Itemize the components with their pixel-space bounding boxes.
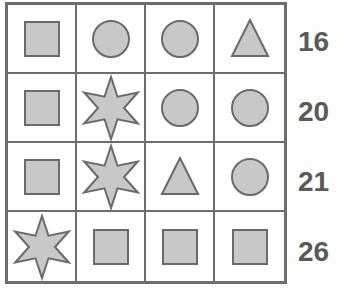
circle-icon	[218, 76, 282, 140]
square-icon	[148, 215, 212, 279]
star-icon	[10, 215, 74, 279]
grid-cell	[215, 5, 284, 74]
grid-cell	[146, 212, 215, 281]
grid-cell	[8, 143, 77, 212]
star-icon	[79, 145, 143, 209]
circle-icon	[218, 145, 282, 209]
grid-cell	[146, 74, 215, 143]
grid-cell	[146, 143, 215, 212]
row-sum: 16	[298, 26, 329, 58]
grid-cell	[77, 143, 146, 212]
grid-cell	[77, 74, 146, 143]
row-sum: 21	[298, 166, 329, 198]
grid-cell	[8, 74, 77, 143]
grid-cell	[8, 212, 77, 281]
triangle-icon	[148, 145, 212, 209]
row-sum: 26	[298, 236, 329, 268]
grid-cell	[77, 5, 146, 74]
square-icon	[79, 215, 143, 279]
grid-cell	[8, 5, 77, 74]
shape-grid	[5, 2, 287, 284]
square-icon	[10, 7, 74, 71]
star-icon	[79, 76, 143, 140]
triangle-icon	[218, 7, 282, 71]
square-icon	[10, 145, 74, 209]
square-icon	[218, 215, 282, 279]
circle-icon	[79, 7, 143, 71]
grid-cell	[215, 143, 284, 212]
grid-cell	[215, 74, 284, 143]
circle-icon	[148, 7, 212, 71]
circle-icon	[148, 76, 212, 140]
grid-cell	[146, 5, 215, 74]
row-sum: 20	[298, 96, 329, 128]
grid-cell	[77, 212, 146, 281]
square-icon	[10, 76, 74, 140]
grid-cell	[215, 212, 284, 281]
